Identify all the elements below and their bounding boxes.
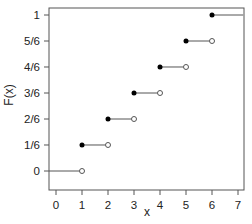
x-axis-label: x xyxy=(144,205,150,219)
x-tick-label: 3 xyxy=(131,199,137,211)
y-axis-label: F(x) xyxy=(2,84,16,105)
plot-border xyxy=(49,8,244,190)
closed-point xyxy=(158,64,163,69)
x-tick-label: 4 xyxy=(157,199,164,211)
y-tick-label: 4/6 xyxy=(24,61,40,73)
x-tick-label: 6 xyxy=(209,199,215,211)
step-series xyxy=(49,13,243,174)
x-tick-label: 1 xyxy=(79,199,85,211)
closed-point xyxy=(106,117,111,122)
open-point xyxy=(210,39,215,44)
chart-svg: 01/62/63/64/65/61 01234567 F(x) x xyxy=(0,0,252,224)
y-tick-label: 2/6 xyxy=(24,113,40,125)
open-point xyxy=(80,169,85,174)
y-tick-label: 3/6 xyxy=(24,87,40,99)
x-tick-label: 0 xyxy=(53,199,59,211)
x-tick-label: 7 xyxy=(235,199,241,211)
closed-point xyxy=(210,13,215,18)
x-tick-label: 5 xyxy=(183,199,189,211)
closed-point xyxy=(184,39,189,44)
ecdf-step-chart: 01/62/63/64/65/61 01234567 F(x) x xyxy=(0,0,252,224)
plot-area-frame xyxy=(49,8,244,190)
y-tick-label: 0 xyxy=(34,165,40,177)
closed-point xyxy=(132,91,137,96)
open-point xyxy=(158,91,163,96)
y-axis: 01/62/63/64/65/61 xyxy=(24,9,49,177)
open-point xyxy=(132,117,137,122)
x-tick-label: 2 xyxy=(105,199,111,211)
open-point xyxy=(184,64,189,69)
closed-point xyxy=(80,142,85,147)
y-tick-label: 1/6 xyxy=(24,139,40,151)
y-tick-label: 1 xyxy=(34,9,40,21)
y-tick-label: 5/6 xyxy=(24,35,40,47)
open-point xyxy=(106,142,111,147)
